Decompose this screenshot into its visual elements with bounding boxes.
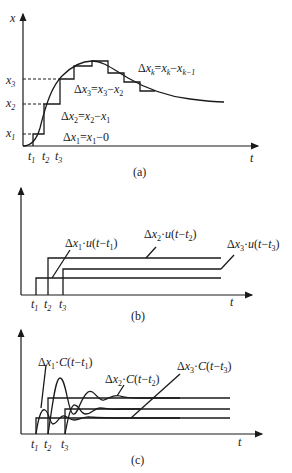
caption-b: (b) — [131, 309, 145, 323]
x-tick-t3-a: t3 — [55, 149, 62, 165]
x-tick-t1-b: t1 — [31, 297, 38, 313]
diagram-canvas: x t x3 x2 x1 t1 t2 t3 Δxk=xk−xk−1 Δx3=x3… — [0, 0, 292, 473]
annotation-delta-x1: Δx1=x1−0 — [63, 130, 109, 146]
leader-step-3 — [221, 255, 234, 269]
step-2 — [48, 258, 221, 295]
x-tick-t1-c: t1 — [31, 437, 38, 453]
annotation-delta-xk: Δxk=xk−xk−1 — [138, 61, 195, 77]
step-3 — [63, 269, 221, 295]
y-tick-x3: x3 — [5, 73, 15, 89]
x-tick-t3-b: t3 — [59, 297, 66, 313]
annotation-delta-x2: Δx2=x2−x1 — [61, 109, 110, 125]
annotation-step-3: Δx3·u(t−t3) — [227, 237, 280, 253]
annotation-delta-x3: Δx3=x3−x2 — [74, 82, 123, 98]
y-axis-label-a: x — [9, 11, 16, 25]
x-tick-t2-b: t2 — [44, 297, 51, 313]
x-axis-label-a: t — [250, 151, 254, 165]
staircase-approximation — [33, 61, 155, 146]
response-2-c — [48, 378, 180, 434]
leader-step-1 — [52, 250, 70, 278]
annotation-response-3: Δx3·C(t−t3) — [177, 359, 232, 375]
x-tick-t2-c: t2 — [44, 437, 51, 453]
caption-c: (c) — [131, 453, 144, 467]
x-axis-label-b: t — [230, 295, 234, 309]
annotation-response-1: Δx1·C(t−t1) — [38, 355, 93, 371]
annotation-response-2: Δx2·C(t−t2) — [105, 372, 160, 388]
y-tick-x2: x2 — [5, 96, 15, 112]
x-tick-t2-a: t2 — [42, 149, 49, 165]
leader-step-2 — [146, 247, 156, 258]
panel-b: t Δx1·u(t−t1) Δx2·u(t−t2) Δx3·u(t−t3) t1… — [21, 188, 280, 323]
caption-a: (a) — [133, 165, 146, 179]
leader-response-1 — [41, 365, 46, 408]
y-tick-x1: x1 — [5, 126, 15, 142]
annotation-step-1: Δx1·u(t−t1) — [65, 236, 118, 252]
x-tick-t1-a: t1 — [28, 149, 35, 165]
step-1 — [36, 278, 221, 295]
annotation-step-2: Δx2·u(t−t2) — [144, 227, 197, 243]
step-2-c — [48, 398, 230, 434]
panel-c: t Δx1·C(t−t1) Δx2·C(t−t2) Δx3·C(t−t3) t1… — [21, 330, 262, 467]
panel-a: x t x3 x2 x1 t1 t2 t3 Δxk=xk−xk−1 Δx3=x3… — [5, 11, 258, 179]
x-tick-t3-c: t3 — [61, 437, 68, 453]
response-1-c — [36, 410, 180, 434]
x-axis-label-c: t — [238, 435, 242, 449]
